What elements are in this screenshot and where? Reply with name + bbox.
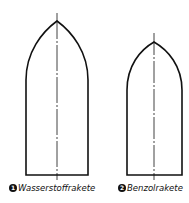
rocket-2-label: Benzolrakete	[127, 183, 183, 193]
rocket-1-caption: 1 Wasserstoffrakete	[9, 183, 95, 193]
rocket-diagram	[0, 0, 189, 203]
rocket-2-outline	[127, 33, 182, 180]
rocket-1-outline	[26, 13, 88, 180]
rocket-1-label: Wasserstoffrakete	[18, 183, 95, 193]
number-badge-1: 1	[9, 184, 17, 192]
rocket-2-caption: 2 Benzolrakete	[118, 183, 183, 193]
number-badge-2: 2	[118, 184, 126, 192]
